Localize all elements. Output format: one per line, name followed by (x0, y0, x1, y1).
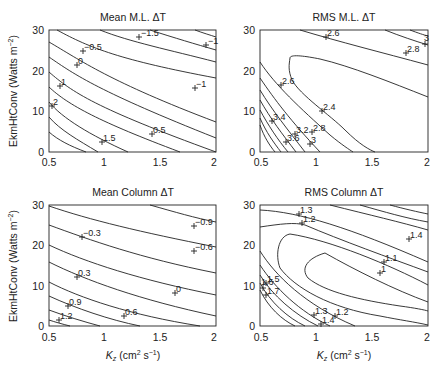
svg-text:0.5: 0.5 (153, 125, 166, 135)
svg-text:2.4: 2.4 (323, 102, 336, 112)
panel-title: RMS M.L. ΔT (312, 11, 376, 23)
svg-text:2: 2 (211, 156, 217, 168)
svg-text:2.6: 2.6 (327, 28, 340, 38)
x-ticks: 0.5 1 1.5 2 (42, 156, 217, 168)
contour-labels: 1.3 1.2 1.4 1.1 1 1.5 1.6 1.7 1.3 1.4 1.… (261, 205, 423, 325)
svg-text:0.3: 0.3 (78, 268, 91, 278)
svg-text:1: 1 (313, 156, 319, 168)
svg-text:1.7: 1.7 (267, 286, 280, 296)
svg-text:30: 30 (32, 24, 44, 36)
svg-text:1.5: 1.5 (365, 331, 380, 343)
svg-text:3.4: 3.4 (273, 112, 286, 122)
svg-text:−1: −1 (208, 36, 218, 46)
y-axis-label-top: EkmHtConv (Watts m−2) (7, 35, 19, 147)
y-ticks: 30 20 10 0 (243, 199, 255, 332)
svg-text:30: 30 (243, 199, 255, 211)
panel-mean-column: Mean Column ΔT −0.9 −0.3 −0.6 0.3 0 0.9 … (32, 186, 217, 362)
svg-text:10: 10 (32, 105, 44, 117)
svg-text:1: 1 (381, 264, 386, 274)
svg-text:1: 1 (313, 331, 319, 343)
x-ticks: 0.5 1 1.5 2 (254, 331, 430, 343)
panel-title: Mean M.L. ΔT (100, 11, 167, 23)
svg-text:1: 1 (101, 156, 107, 168)
panel-title: Mean Column ΔT (92, 186, 174, 198)
svg-text:2.8: 2.8 (313, 123, 326, 133)
svg-text:0.6: 0.6 (125, 307, 138, 317)
panel-title: RMS Column ΔT (305, 186, 384, 198)
svg-text:20: 20 (32, 65, 44, 77)
svg-text:0.5: 0.5 (42, 331, 57, 343)
svg-text:0.5: 0.5 (254, 156, 269, 168)
svg-text:2: 2 (424, 156, 430, 168)
svg-text:2.6: 2.6 (282, 76, 295, 86)
svg-text:0.9: 0.9 (69, 297, 82, 307)
svg-text:20: 20 (32, 239, 44, 251)
svg-text:1.5: 1.5 (365, 156, 380, 168)
contour-lines (49, 30, 216, 152)
x-axis-label: Kz (cm2 s−1) (106, 349, 161, 362)
y-ticks: 30 20 10 0 (32, 199, 44, 332)
panel-rms-ml: RMS M.L. ΔT 2.6 3 2.8 2.6 2.4 3.4 3.2 2.… (243, 11, 430, 168)
svg-text:1.5: 1.5 (153, 331, 168, 343)
y-ticks: 30 20 10 0 (32, 24, 44, 158)
svg-text:1: 1 (101, 331, 107, 343)
svg-text:3: 3 (311, 135, 316, 145)
contour-label-markers (49, 34, 428, 327)
svg-text:10: 10 (243, 280, 255, 292)
svg-text:−1: −1 (196, 79, 206, 89)
svg-text:1.2: 1.2 (336, 307, 349, 317)
svg-text:1.4: 1.4 (322, 315, 335, 325)
svg-text:0.5: 0.5 (42, 156, 57, 168)
contour-lines (260, 30, 428, 152)
svg-text:2: 2 (424, 331, 430, 343)
svg-text:1.2: 1.2 (303, 214, 316, 224)
svg-text:1: 1 (61, 77, 66, 87)
svg-text:0: 0 (176, 284, 181, 294)
svg-text:−0.6: −0.6 (195, 242, 213, 252)
contour-labels: −0.9 −0.3 −0.6 0.3 0 0.9 0.6 1.2 (60, 217, 213, 321)
y-ticks: 30 20 10 0 (243, 24, 255, 158)
svg-text:20: 20 (243, 65, 255, 77)
svg-text:2.8: 2.8 (407, 44, 420, 54)
y-axis-label-bottom: EkmHtConv (Watts m−2) (7, 210, 19, 322)
svg-text:3.6: 3.6 (287, 133, 300, 143)
plot-frame (260, 30, 428, 152)
svg-text:−0.9: −0.9 (195, 217, 213, 227)
svg-text:20: 20 (243, 239, 255, 251)
x-ticks: 0.5 1 1.5 2 (254, 156, 430, 168)
svg-text:30: 30 (32, 199, 44, 211)
figure: Mean M.L. ΔT −1.5 −1 −0.5 0 −1 1 2 0.5 1… (0, 0, 442, 375)
svg-text:2: 2 (53, 97, 58, 107)
svg-text:1.2: 1.2 (60, 311, 73, 321)
svg-text:1.1: 1.1 (385, 253, 398, 263)
panel-mean-ml: Mean M.L. ΔT −1.5 −1 −0.5 0 −1 1 2 0.5 1… (32, 11, 218, 168)
svg-text:−0.3: −0.3 (83, 228, 101, 238)
svg-text:1.5: 1.5 (103, 133, 116, 143)
x-ticks: 0.5 1 1.5 2 (42, 331, 217, 343)
svg-text:−1.5: −1.5 (141, 28, 159, 38)
svg-text:10: 10 (243, 105, 255, 117)
svg-text:2: 2 (211, 331, 217, 343)
panel-rms-column: RMS Column ΔT 1.3 1.2 1.4 1.1 1 1.5 1.6 … (243, 186, 430, 362)
svg-text:10: 10 (32, 280, 44, 292)
svg-text:1.4: 1.4 (410, 230, 423, 240)
svg-text:0.5: 0.5 (254, 331, 269, 343)
svg-text:30: 30 (243, 24, 255, 36)
x-axis-label: Kz (cm2 s−1) (317, 349, 372, 362)
svg-text:−0.5: −0.5 (84, 42, 102, 52)
svg-text:1.5: 1.5 (153, 156, 168, 168)
svg-text:0: 0 (78, 56, 83, 66)
